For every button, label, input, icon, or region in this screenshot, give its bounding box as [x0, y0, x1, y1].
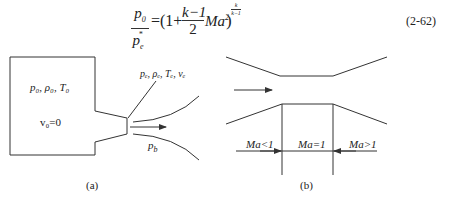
reservoir-nozzle-outline: [10, 57, 127, 155]
sonic-region-label: Ma=1: [298, 138, 326, 150]
duct-upper-wall: [226, 57, 387, 76]
jet-lower-boundary: [133, 134, 199, 160]
supersonic-region-label: Ma>1: [349, 138, 377, 150]
figure-b-caption: (b): [300, 179, 313, 191]
duct-lower-wall: [226, 104, 387, 124]
back-pressure-label: pb: [148, 139, 158, 154]
diagram-lines: [0, 0, 462, 199]
chamber-state-label: p₀, ρ₀, T₀: [30, 81, 69, 93]
figure-a-caption: (a): [86, 179, 98, 191]
exit-leader-line: [128, 81, 156, 118]
exit-state-label: pₑ, ρₑ, Tₑ, vₑ: [140, 68, 185, 79]
subsonic-region-label: Ma<1: [246, 138, 274, 150]
jet-upper-boundary: [133, 96, 199, 122]
stagnation-velocity-label: v₀=0: [40, 116, 61, 128]
